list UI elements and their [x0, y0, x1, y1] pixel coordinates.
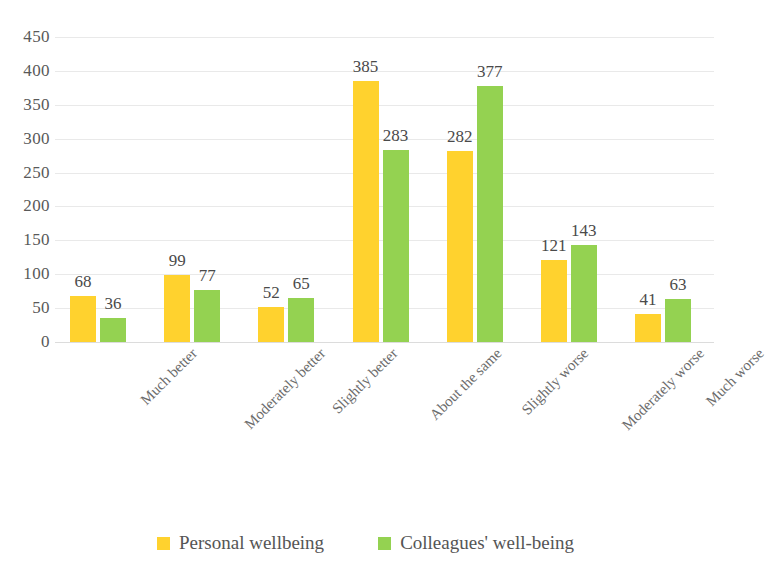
bar-colleagues [194, 290, 220, 342]
y-axis-tick-label: 350 [6, 94, 50, 114]
y-axis-tick-label: 100 [6, 264, 50, 284]
x-axis-tick-label: Much better [137, 345, 201, 409]
plot-area: 6836997752653852832823771211434163 [55, 37, 714, 342]
gridline [55, 37, 714, 38]
bar-personal [353, 81, 379, 342]
bar-personal [635, 314, 661, 342]
legend-swatch-icon [378, 537, 391, 550]
bar-personal [541, 260, 567, 342]
gridline [55, 105, 714, 106]
y-axis-tick-label: 450 [6, 27, 50, 47]
x-axis-tick-label: Slightly better [329, 345, 401, 417]
x-axis-tick-label: Slightly worse [518, 345, 592, 419]
bar-colleagues [288, 298, 314, 342]
legend-item[interactable]: Personal wellbeing [157, 532, 324, 554]
legend-label: Colleagues' well-being [400, 532, 574, 554]
y-axis-tick-label: 400 [6, 60, 50, 80]
bar-value-label: 77 [180, 266, 234, 286]
legend-item[interactable]: Colleagues' well-being [378, 532, 574, 554]
bar-value-label: 65 [274, 274, 328, 294]
bar-value-label: 63 [651, 275, 705, 295]
y-axis: 450400350300250200150100500 [0, 37, 50, 342]
x-axis-tick-label: About the same [426, 345, 505, 424]
x-axis-tick-label: Much worse [703, 345, 768, 410]
x-axis-tick-label: Moderately better [242, 345, 330, 433]
bar-colleagues [571, 245, 597, 342]
y-axis-tick-label: 300 [6, 128, 50, 148]
bar-colleagues [383, 150, 409, 342]
bar-value-label: 68 [56, 272, 110, 292]
y-axis-tick-label: 50 [6, 298, 50, 318]
bar-value-label: 377 [463, 62, 517, 82]
bar-colleagues [100, 318, 126, 342]
y-axis-tick-label: 200 [6, 196, 50, 216]
bar-colleagues [477, 86, 503, 342]
axis-baseline [55, 342, 714, 343]
bar-value-label: 143 [557, 221, 611, 241]
y-axis-tick-label: 250 [6, 162, 50, 182]
legend-label: Personal wellbeing [179, 532, 324, 554]
x-axis-tick-label: Moderately worse [619, 345, 708, 434]
x-axis-category-labels: Much betterModerately betterSlightly bet… [55, 345, 714, 485]
bar-value-label: 385 [339, 57, 393, 77]
bar-personal [447, 151, 473, 342]
legend-swatch-icon [157, 537, 170, 550]
bar-colleagues [665, 299, 691, 342]
bar-value-label: 283 [369, 126, 423, 146]
y-axis-tick-label: 150 [6, 230, 50, 250]
bar-value-label: 36 [86, 294, 140, 314]
y-axis-tick-label: 0 [6, 332, 50, 352]
bar-personal [258, 307, 284, 342]
chart-legend: Personal wellbeingColleagues' well-being [0, 526, 731, 560]
